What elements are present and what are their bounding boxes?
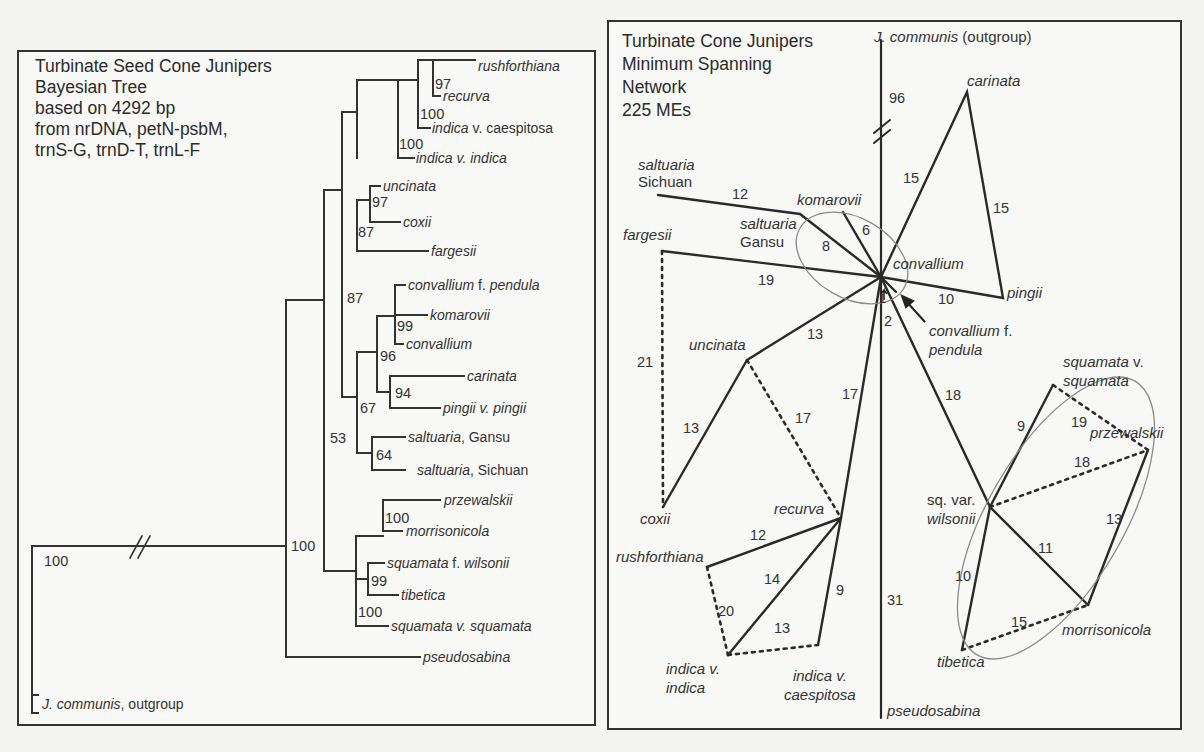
edge-weight: 1 (879, 291, 886, 307)
edge-weight: 18 (1074, 454, 1090, 470)
support-value: 100 (420, 106, 444, 122)
support-value: 64 (376, 447, 392, 463)
node-label-recurva: recurva (774, 500, 824, 517)
edge-weight: 13 (1106, 511, 1122, 527)
support-value: 53 (330, 430, 346, 446)
node-label-coxii: coxii (640, 510, 670, 527)
edge-weight: 19 (1071, 414, 1087, 430)
node-label-convallium: convallium (893, 255, 964, 272)
taxon-label: morrisonicola (406, 523, 489, 539)
node-label-squamata: squamata v.squamata (1063, 352, 1144, 390)
tree-title-line: based on 4292 bp (35, 98, 272, 119)
edge-weight: 11 (1038, 540, 1053, 556)
node-label-saltuaria-gansu: saltuariaGansu (740, 215, 797, 251)
network-title-line: 225 MEs (622, 99, 813, 122)
taxon-label: coxii (403, 214, 431, 230)
support-value: 99 (397, 318, 413, 334)
taxon-label: saltuaria, Sichuan (417, 462, 528, 478)
taxon-label: komarovii (430, 307, 490, 323)
node-label-convallium-pendula: convallium f.pendula (929, 321, 1012, 359)
edge-weight: 6 (862, 222, 870, 238)
edge-weight: 20 (718, 603, 734, 619)
taxon-label: pseudosabina (423, 649, 510, 665)
support-value: 99 (371, 573, 387, 589)
node-label-rushforthiana: rushforthiana (616, 548, 704, 565)
support-value: 96 (380, 348, 396, 364)
tree-title-line: Turbinate Seed Cone Junipers (35, 56, 272, 77)
tree-title-line: trnS-G, trnD-T, trnL-F (35, 140, 272, 161)
edge-weight: 12 (732, 186, 748, 202)
edge-weight: 9 (1017, 418, 1025, 434)
taxon-label: rushforthiana (478, 58, 560, 74)
support-value: 100 (358, 604, 382, 620)
support-value: 97 (372, 194, 388, 210)
edge-weight: 15 (903, 170, 919, 186)
edge-weight: 19 (758, 272, 774, 288)
node-label-pseudosabina: pseudosabina (887, 702, 980, 719)
taxon-label: squamata f. wilsonii (387, 555, 509, 571)
support-value: 100 (385, 510, 409, 526)
support-value: 94 (395, 385, 411, 401)
edge-weight: 13 (774, 620, 790, 636)
taxon-label: pingii v. pingii (443, 400, 526, 416)
support-value: 100 (399, 136, 423, 152)
edge-weight: 12 (750, 527, 766, 543)
taxon-label: convallium (406, 336, 472, 352)
network-dotted-edges (662, 251, 1148, 655)
tree-title-line: Bayesian Tree (35, 77, 272, 98)
node-label-tibetica: tibetica (937, 653, 985, 670)
network-title-line: Turbinate Cone Junipers (622, 30, 813, 53)
taxon-label: saltuaria, Gansu (408, 429, 510, 445)
taxon-label: tibetica (401, 587, 445, 603)
node-label-saltuaria-sichuan: saltuariaSichuan (638, 156, 695, 190)
edge-weight: 21 (637, 354, 653, 370)
node-label-przewalskii: przewalskii (1090, 424, 1163, 441)
tree-title: Turbinate Seed Cone Junipers Bayesian Tr… (35, 56, 272, 161)
node-label-wilsonii: sq. var.wilsonii (927, 490, 975, 528)
edge-weight: 8 (822, 238, 830, 254)
node-label-caespitosa: indica v.caespitosa (784, 666, 856, 704)
taxon-label: J. communis, outgroup (42, 696, 184, 712)
edge-weight: 13 (807, 326, 823, 342)
edge-weight: 31 (887, 592, 903, 608)
edge-weight: 14 (764, 571, 780, 587)
edge-weight: 15 (1011, 614, 1027, 630)
edge-weight: 15 (993, 200, 1009, 216)
taxon-label: przewalskii (444, 492, 512, 508)
network-title: Turbinate Cone Junipers Minimum Spanning… (622, 30, 813, 122)
node-label-morrisonicola: morrisonicola (1062, 621, 1151, 638)
edge-weight: 9 (836, 582, 844, 598)
grouping-ellipses (780, 193, 1194, 688)
edge-weight: 13 (683, 420, 699, 436)
taxon-label: carinata (467, 368, 517, 384)
taxon-label: fargesii (431, 243, 476, 259)
edge-weight: 17 (795, 410, 811, 426)
taxon-label: squamata v. squamata (391, 618, 532, 634)
taxon-label: indica v. indica (416, 150, 507, 166)
support-value: 100 (44, 553, 68, 569)
tree-title-line: from nrDNA, petN-psbM, (35, 119, 272, 140)
edge-weight: 17 (842, 386, 858, 402)
edge-weight: 10 (938, 291, 954, 307)
support-value: 87 (358, 224, 374, 240)
node-label-fargesii: fargesii (623, 226, 671, 243)
support-value: 87 (347, 290, 363, 306)
node-label-pingii: pingii (1007, 284, 1042, 301)
taxon-label: indica v. caespitosa (432, 120, 553, 136)
edge-weight: 10 (955, 568, 971, 584)
node-label-carinata: carinata (967, 72, 1020, 89)
network-title-line: Network (622, 76, 813, 99)
support-value: 67 (360, 400, 376, 416)
node-label-outgroup: J. communis (outgroup) (874, 28, 1032, 45)
edge-weight: 18 (945, 387, 961, 403)
taxon-label: convallium f. pendula (408, 277, 540, 293)
edge-weight: 96 (889, 90, 905, 106)
taxon-label: uncinata (383, 178, 436, 194)
network-title-line: Minimum Spanning (622, 53, 813, 76)
node-label-uncinata: uncinata (689, 336, 746, 353)
node-label-indica-indica: indica v.indica (666, 659, 720, 697)
node-label-komarovii: komarovii (797, 191, 861, 208)
edge-weight: 2 (884, 313, 892, 329)
support-value: 97 (435, 76, 451, 92)
support-value: 100 (291, 538, 315, 554)
